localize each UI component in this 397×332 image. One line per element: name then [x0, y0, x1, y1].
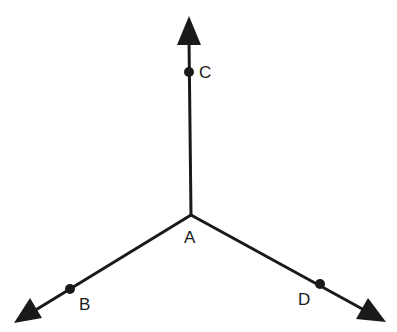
label-B: B: [79, 295, 90, 314]
label-C: C: [199, 63, 211, 82]
ray-AC-line: [189, 40, 191, 215]
arrowhead-B-icon: [14, 298, 42, 323]
point-B-dot: [65, 284, 75, 294]
label-A: A: [184, 228, 196, 247]
point-C-dot: [184, 67, 194, 77]
arrowhead-D-icon: [356, 298, 386, 322]
point-D-dot: [315, 279, 325, 289]
arrowhead-C-icon: [177, 16, 201, 45]
label-D: D: [298, 290, 310, 309]
ray-AD-line: [191, 215, 366, 311]
geometry-diagram: A C B D: [0, 0, 397, 332]
ray-AB-line: [34, 215, 191, 311]
